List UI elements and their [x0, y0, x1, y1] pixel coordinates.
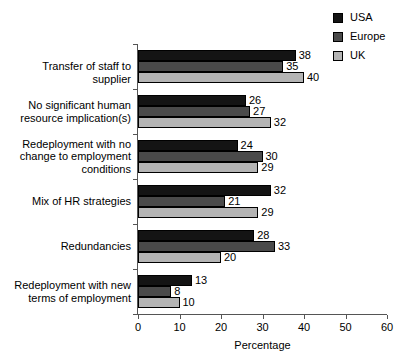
y-tick — [133, 269, 137, 270]
x-tick-label: 10 — [165, 321, 195, 333]
bar-value-label: 40 — [304, 71, 319, 83]
bar-row: 35 — [138, 61, 387, 72]
bar-uk — [138, 117, 271, 128]
x-tick — [180, 315, 181, 319]
bar-group: 383540 — [138, 50, 387, 83]
bar-value-label: 27 — [250, 105, 265, 117]
x-tick-label: 50 — [331, 321, 361, 333]
legend-swatch-usa — [333, 13, 343, 23]
bar-usa — [138, 95, 246, 106]
x-tick — [387, 315, 388, 319]
category-label: Redundancies — [1, 240, 131, 253]
bar-europe — [138, 106, 250, 117]
category-label-line: No significant human — [1, 99, 131, 112]
bar-usa — [138, 275, 192, 286]
x-axis-title: Percentage — [138, 339, 387, 351]
bar-group: 243029 — [138, 140, 387, 173]
bar-value-label: 13 — [192, 274, 207, 286]
bar-value-label: 24 — [238, 139, 253, 151]
bar-europe — [138, 151, 263, 162]
bar-row: 29 — [138, 162, 387, 173]
bar-usa — [138, 185, 271, 196]
category-label-line: terms of employment — [1, 292, 131, 305]
y-axis-line — [137, 44, 138, 314]
x-tick-label: 0 — [123, 321, 153, 333]
bar-europe — [138, 241, 275, 252]
category-label: Redeployment with nochange to employment… — [1, 138, 131, 176]
bar-value-label: 32 — [271, 184, 286, 196]
bar-row: 33 — [138, 241, 387, 252]
bar-usa — [138, 50, 296, 61]
bar-value-label: 10 — [180, 296, 195, 308]
bar-row: 40 — [138, 72, 387, 83]
bar-row: 27 — [138, 106, 387, 117]
category-label-line: Redeployment with no — [1, 138, 131, 151]
category-label: Mix of HR strategies — [1, 195, 131, 208]
x-tick-label: 20 — [206, 321, 236, 333]
category-label-line: change to employment — [1, 150, 131, 163]
y-tick — [133, 224, 137, 225]
bar-value-label: 28 — [254, 229, 269, 241]
bar-usa — [138, 230, 254, 241]
bar-row: 10 — [138, 297, 387, 308]
y-tick — [133, 179, 137, 180]
x-tick — [263, 315, 264, 319]
x-tick-label: 40 — [289, 321, 319, 333]
y-tick — [133, 89, 137, 90]
bar-value-label: 21 — [225, 195, 240, 207]
bar-value-label: 32 — [271, 116, 286, 128]
bar-group: 262732 — [138, 95, 387, 128]
category-label: Redeployment with newterms of employment — [1, 279, 131, 304]
bar-uk — [138, 252, 221, 263]
bar-row: 8 — [138, 286, 387, 297]
bar-group: 322129 — [138, 185, 387, 218]
category-label-line: Transfer of staff to supplier — [1, 60, 131, 85]
bar-value-label: 29 — [258, 161, 273, 173]
x-tick-label: 30 — [248, 321, 278, 333]
category-label-line: Redundancies — [1, 240, 131, 253]
y-tick — [133, 134, 137, 135]
category-label: Transfer of staff to supplier — [1, 60, 131, 85]
category-label-line: Redeployment with new — [1, 279, 131, 292]
category-label-line: resource implication(s) — [1, 112, 131, 125]
bar-row: 38 — [138, 50, 387, 61]
x-tick — [346, 315, 347, 319]
legend-label-usa: USA — [350, 12, 373, 23]
plot-area: 0102030405060 38354026273224302932212928… — [138, 44, 387, 314]
bar-europe — [138, 196, 225, 207]
bar-group: 13810 — [138, 275, 387, 308]
bar-europe — [138, 286, 171, 297]
bar-value-label: 35 — [283, 60, 298, 72]
bar-row: 32 — [138, 185, 387, 196]
x-tick — [221, 315, 222, 319]
bar-group: 283320 — [138, 230, 387, 263]
bar-uk — [138, 72, 304, 83]
bar-value-label: 29 — [258, 206, 273, 218]
bar-row: 20 — [138, 252, 387, 263]
legend-swatch-europe — [333, 32, 343, 42]
bar-europe — [138, 61, 283, 72]
legend-label-europe: Europe — [350, 31, 385, 42]
category-label-line: conditions — [1, 163, 131, 176]
bar-value-label: 33 — [275, 240, 290, 252]
bar-row: 29 — [138, 207, 387, 218]
bar-uk — [138, 162, 258, 173]
category-label: No significant humanresource implication… — [1, 99, 131, 124]
bar-row: 32 — [138, 117, 387, 128]
y-tick — [133, 44, 137, 45]
y-tick — [133, 314, 137, 315]
bar-uk — [138, 207, 258, 218]
bar-chart: USA Europe UK 0102030405060 383540262732… — [0, 0, 404, 361]
legend-item-usa: USA — [333, 8, 403, 27]
bar-value-label: 20 — [221, 251, 236, 263]
bar-usa — [138, 140, 238, 151]
x-tick — [304, 315, 305, 319]
x-tick — [138, 315, 139, 319]
bar-row: 28 — [138, 230, 387, 241]
bar-uk — [138, 297, 180, 308]
x-tick-label: 60 — [372, 321, 402, 333]
category-label-line: Mix of HR strategies — [1, 195, 131, 208]
